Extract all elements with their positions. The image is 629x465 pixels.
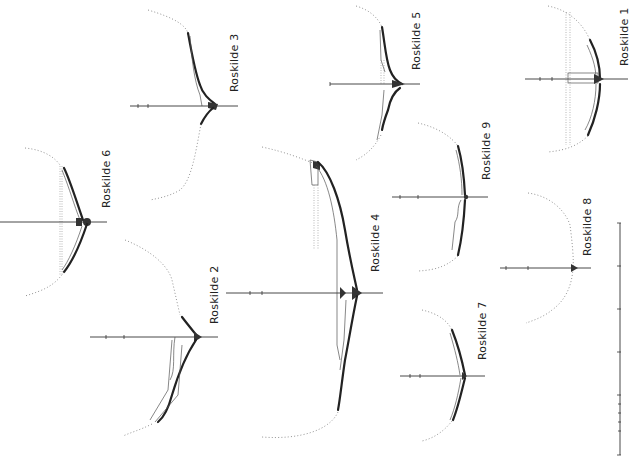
section-roskilde-4 <box>226 147 383 438</box>
label-roskilde-5: Roskilde 5 <box>410 12 423 70</box>
label-roskilde-6: Roskilde 6 <box>100 150 113 208</box>
section-roskilde-7 <box>400 310 485 441</box>
label-roskilde-7: Roskilde 7 <box>476 302 489 360</box>
scale-bar <box>617 223 621 455</box>
label-roskilde-4: Roskilde 4 <box>369 214 382 272</box>
section-roskilde-8 <box>500 193 591 323</box>
section-roskilde-1 <box>525 6 628 152</box>
section-roskilde-5 <box>330 6 420 160</box>
label-roskilde-9: Roskilde 9 <box>480 122 493 180</box>
label-roskilde-8: Roskilde 8 <box>581 198 594 256</box>
section-roskilde-2 <box>90 240 218 436</box>
section-roskilde-9 <box>392 123 488 271</box>
section-roskilde-3 <box>130 10 238 200</box>
label-roskilde-1: Roskilde 1 <box>618 8 629 66</box>
label-roskilde-3: Roskilde 3 <box>228 34 241 92</box>
hull-sections-diagram <box>0 0 629 465</box>
section-roskilde-6 <box>0 148 107 296</box>
label-roskilde-2: Roskilde 2 <box>208 266 221 324</box>
